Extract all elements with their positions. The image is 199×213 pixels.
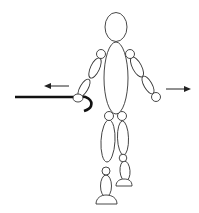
left-arm [73, 56, 104, 102]
left-arrow-icon [44, 83, 69, 89]
left-hand [73, 94, 83, 102]
left-hip-joint [105, 112, 114, 121]
torso [104, 42, 128, 114]
left-leg [96, 120, 117, 204]
right-leg [116, 121, 132, 186]
mannequin-diagram [0, 0, 199, 213]
right-arrow-icon [166, 86, 191, 92]
left-shoulder-joint [97, 50, 106, 59]
right-shoulder-joint [126, 50, 135, 59]
right-hand [152, 93, 161, 102]
head [105, 13, 127, 42]
right-arm [128, 55, 161, 101]
